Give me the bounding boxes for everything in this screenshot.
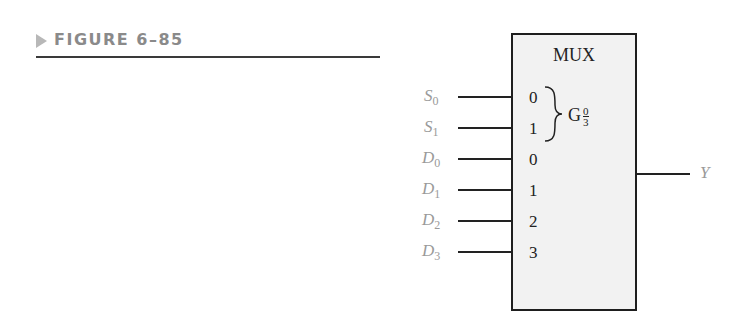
signal-label-s0: S0 [424, 86, 439, 109]
signal-label-d1: D1 [422, 179, 440, 202]
triangle-arrow-icon [36, 34, 47, 48]
signal-label-y: Y [700, 163, 709, 183]
signal-label-d0: D0 [422, 148, 440, 171]
mux-title: MUX [513, 45, 635, 66]
pin-number-s0: 0 [529, 88, 538, 108]
pin-number-d1: 1 [529, 181, 538, 201]
figure-label: FIGURE 6–85 [54, 30, 184, 49]
mux-block: MUX 0 1 G03 0 1 2 3 [511, 33, 637, 311]
wire-s1 [458, 127, 511, 129]
pin-number-s1: 1 [529, 119, 538, 139]
wire-d0 [458, 158, 511, 160]
signal-label-d3: D3 [422, 241, 440, 264]
select-group-label: G03 [568, 105, 589, 127]
pin-number-d2: 2 [529, 212, 538, 232]
select-range-fraction: 03 [583, 106, 589, 127]
right-brace-icon [543, 85, 565, 143]
wire-y [637, 173, 690, 175]
wire-d2 [458, 220, 511, 222]
wire-s0 [458, 96, 511, 98]
signal-label-s1: S1 [424, 117, 439, 140]
pin-number-d3: 3 [529, 243, 538, 263]
signal-label-d2: D2 [422, 210, 440, 233]
wire-d1 [458, 189, 511, 191]
wire-d3 [458, 251, 511, 253]
figure-header: FIGURE 6–85 [36, 28, 380, 58]
pin-number-d0: 0 [529, 150, 538, 170]
